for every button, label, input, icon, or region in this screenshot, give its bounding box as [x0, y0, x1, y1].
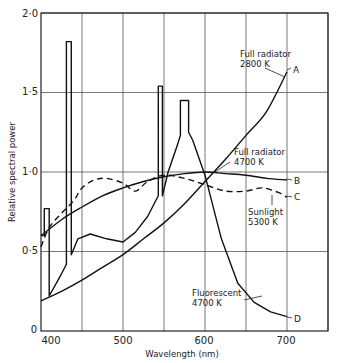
spectral-power-chart: 2·0 1·5 1·0 0·5 0 400 500 600 700 Wavele… — [0, 0, 339, 363]
y-tick-2-0: 2·0 — [22, 8, 38, 19]
y-tick-0-5: 0·5 — [22, 245, 38, 256]
label-sunlight-line2: 5300 K — [248, 217, 278, 227]
label-fluorescent-line2: 4700 K — [192, 298, 222, 308]
marker-c: C — [294, 192, 300, 202]
y-tick-1-5: 1·5 — [22, 86, 38, 97]
y-tick-1-0: 1·0 — [22, 166, 38, 177]
label-full-radiator-2800-line2: 2800 K — [240, 59, 270, 69]
x-tick-500: 500 — [113, 335, 132, 346]
label-fluorescent-line1: Fluorescent — [192, 288, 242, 298]
x-tick-600: 600 — [194, 335, 213, 346]
marker-b: B — [294, 176, 300, 186]
x-axis-label: Wavelength (nm) — [145, 349, 218, 359]
label-full-radiator-4700-line1: Full radiator — [234, 147, 285, 157]
grid — [41, 13, 328, 331]
y-tick-0: 0 — [31, 324, 37, 335]
x-tick-700: 700 — [276, 335, 295, 346]
x-tick-400: 400 — [41, 335, 60, 346]
marker-d: D — [294, 314, 301, 324]
y-axis-label: Relative spectral power — [7, 121, 17, 222]
label-full-radiator-2800-line1: Full radiator — [240, 49, 291, 59]
label-sunlight-line1: Sunlight — [248, 207, 284, 217]
marker-a: A — [293, 65, 300, 75]
label-full-radiator-4700-line2: 4700 K — [234, 157, 264, 167]
